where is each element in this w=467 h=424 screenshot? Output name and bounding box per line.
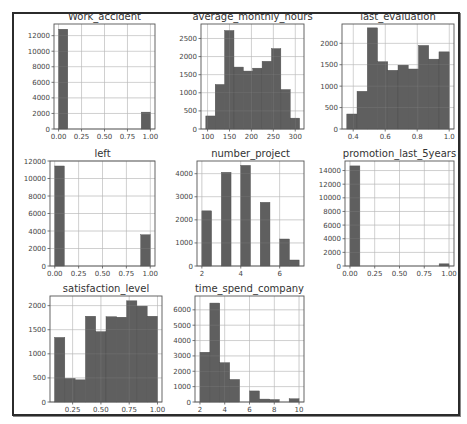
histogram-left: 0.000.250.500.751.0002000400060008000100… — [24, 148, 158, 278]
histogram-bar — [65, 378, 75, 402]
histogram-bar — [55, 337, 65, 402]
histogram-bar — [221, 172, 231, 266]
x-tick-label: 0.00 — [47, 270, 63, 278]
y-tick-label: 6000 — [173, 306, 191, 314]
x-tick-label: 0.50 — [95, 270, 111, 278]
histogram-bar — [290, 118, 299, 129]
y-tick-label: 2500 — [179, 35, 197, 43]
histogram-bar — [289, 399, 299, 402]
histogram-bar — [289, 260, 299, 266]
histogram-bar — [234, 67, 243, 129]
histogram-bar — [210, 303, 220, 402]
histogram-bar — [347, 114, 357, 129]
histogram-bar — [230, 379, 240, 402]
y-tick-label: 14000 — [319, 167, 341, 175]
histogram-bar — [378, 62, 388, 129]
histogram-bar — [59, 29, 68, 129]
chart-title: Work_accident — [68, 11, 141, 23]
y-tick-label: 2000 — [32, 110, 50, 118]
histogram-promotion-last-5years: 0.000.250.500.751.0002000400060008000100… — [319, 148, 457, 278]
y-tick-label: 1000 — [173, 383, 191, 391]
x-tick-label: 0.25 — [367, 270, 383, 278]
y-tick-label: 3000 — [175, 193, 193, 201]
histogram-Work-accident: 0.000.250.500.751.0002000400060008000100… — [28, 11, 158, 141]
x-tick-label: 250 — [267, 133, 280, 141]
histogram-bar — [408, 69, 418, 129]
x-tick-label: 300 — [289, 133, 302, 141]
chart-title: left — [94, 148, 110, 159]
x-tick-label: 1.00 — [441, 270, 457, 278]
y-tick-label: 12000 — [319, 181, 341, 189]
x-tick-label: 0.50 — [93, 406, 109, 414]
x-tick-label: 0.00 — [342, 270, 358, 278]
histogram-bar — [398, 65, 408, 129]
histogram-bar — [106, 317, 116, 402]
x-tick-label: 0.25 — [71, 270, 87, 278]
histogram-bar — [439, 52, 449, 129]
x-tick-label: 0.75 — [416, 270, 432, 278]
y-tick-label: 4000 — [28, 228, 46, 236]
y-tick-label: 1500 — [179, 71, 197, 79]
x-tick-label: 0.75 — [119, 270, 135, 278]
chart-title: promotion_last_5years — [343, 148, 456, 160]
y-tick-label: 0 — [189, 263, 193, 271]
y-tick-label: 500 — [184, 107, 197, 115]
x-tick-label: 0.4 — [348, 133, 360, 141]
histogram-bar — [260, 202, 270, 266]
histogram-bar — [350, 166, 360, 266]
y-tick-label: 0 — [42, 263, 46, 271]
x-tick-label: 0.00 — [51, 133, 67, 141]
x-tick-label: 0.50 — [392, 270, 408, 278]
y-tick-label: 1500 — [320, 61, 338, 69]
y-tick-label: 12000 — [28, 32, 50, 40]
x-tick-label: 2 — [200, 270, 204, 278]
y-tick-label: 1000 — [179, 89, 197, 97]
y-tick-label: 10000 — [319, 194, 341, 202]
y-tick-label: 6000 — [32, 79, 50, 87]
x-tick-label: 0.25 — [74, 133, 90, 141]
y-tick-label: 0 — [193, 126, 197, 134]
chart-title: satisfaction_level — [63, 283, 149, 295]
x-tick-label: 0.6 — [380, 133, 392, 141]
y-tick-label: 8000 — [32, 63, 50, 71]
histogram-bar — [147, 316, 157, 402]
x-tick-label: 1.00 — [150, 406, 166, 414]
x-tick-label: 0.50 — [97, 133, 113, 141]
histogram-bar — [55, 166, 65, 266]
y-tick-label: 4000 — [323, 235, 341, 243]
x-tick-label: 6 — [247, 406, 252, 414]
y-tick-label: 4000 — [32, 94, 50, 102]
histogram-bar — [388, 70, 398, 129]
y-tick-label: 8000 — [323, 208, 341, 216]
y-tick-label: 6000 — [28, 210, 46, 218]
x-tick-label: 0.75 — [120, 133, 136, 141]
histogram-bar — [367, 28, 377, 129]
histogram-bar — [225, 31, 234, 129]
y-tick-label: 12000 — [24, 158, 46, 166]
y-tick-label: 0 — [187, 399, 191, 407]
y-tick-label: 2000 — [175, 216, 193, 224]
histogram-grid: 0.000.250.500.751.0002000400060008000100… — [0, 0, 467, 424]
y-tick-label: 0 — [42, 399, 46, 407]
x-tick-label: 4 — [239, 270, 244, 278]
y-tick-label: 1000 — [28, 350, 46, 358]
x-tick-label: 1.00 — [143, 133, 159, 141]
y-tick-label: 4000 — [173, 337, 191, 345]
x-tick-label: 8 — [272, 406, 276, 414]
x-tick-label: 6 — [277, 270, 282, 278]
histogram-bar — [200, 352, 210, 402]
y-tick-label: 10000 — [24, 175, 46, 183]
y-tick-label: 5000 — [173, 322, 191, 330]
x-tick-label: 0.75 — [121, 406, 137, 414]
histogram-last-evaluation: 0.40.60.81.00500100015002000last_evaluat… — [320, 11, 455, 141]
histogram-bar — [262, 61, 271, 129]
y-tick-label: 3000 — [173, 352, 191, 360]
x-tick-label: 4 — [222, 406, 227, 414]
histogram-bar — [281, 90, 290, 129]
y-tick-label: 6000 — [323, 222, 341, 230]
x-tick-label: 10 — [295, 406, 304, 414]
histogram-bar — [215, 84, 224, 129]
y-tick-label: 1000 — [175, 239, 193, 247]
histogram-bar — [141, 235, 151, 266]
y-tick-label: 8000 — [28, 193, 46, 201]
